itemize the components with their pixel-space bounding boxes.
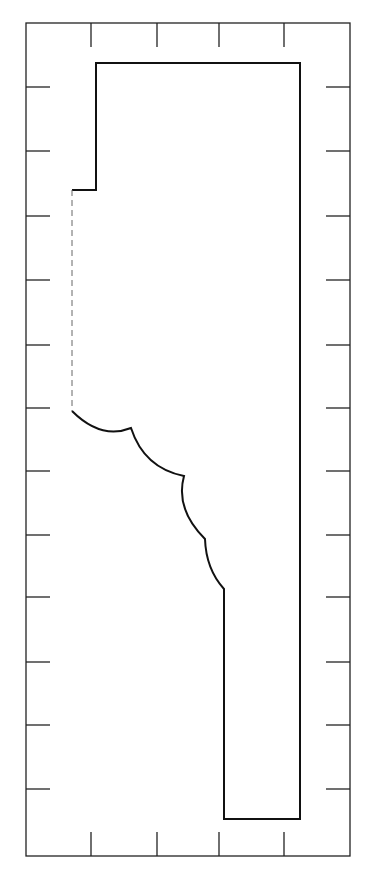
frame-ticks [26,23,350,856]
frame-border [26,23,350,856]
profile-outline [72,63,300,819]
molding-profile [72,63,300,819]
ruled-frame [26,23,350,856]
molding-profile-diagram [0,0,376,877]
